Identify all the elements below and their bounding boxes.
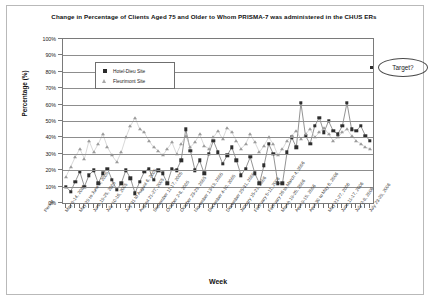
data-point-marker [69, 190, 72, 193]
data-point-marker [74, 180, 77, 183]
y-axis-tick-label: 50% [45, 118, 56, 124]
data-point-marker [152, 145, 156, 148]
y-axis-tickmark [58, 38, 62, 39]
x-axis-labels: May 8-14, 2005May 29 to June 4, 2005June… [7, 208, 425, 274]
y-axis-tickmark [58, 71, 62, 72]
data-point-marker [327, 132, 331, 135]
y-axis-tickmark [58, 153, 62, 154]
y-axis-tick-label: 80% [45, 69, 56, 75]
data-point-marker [105, 145, 109, 148]
data-point-marker [161, 172, 164, 175]
data-point-marker [198, 132, 202, 135]
data-point-marker [235, 159, 238, 162]
data-point-marker [322, 131, 325, 134]
y-axis-tickmark [58, 87, 62, 88]
data-point-marker [82, 157, 86, 160]
data-point-marker [152, 178, 155, 181]
data-point-marker [188, 145, 192, 148]
data-point-marker [115, 160, 119, 163]
legend-label: Fleurimont Site [113, 79, 145, 84]
data-point-marker [308, 127, 312, 130]
data-point-marker [64, 175, 68, 178]
data-point-marker [179, 159, 182, 162]
target-series-marker-icon [370, 66, 373, 69]
data-point-marker [249, 155, 252, 158]
data-point-marker [133, 116, 137, 119]
data-point-marker [165, 147, 169, 150]
y-axis-tick-label: 100% [42, 36, 56, 42]
legend-item-hotel-dieu: Hotel-Dieu Site [99, 66, 174, 76]
y-axis-tickmark [58, 104, 62, 105]
data-point-marker [128, 124, 132, 127]
data-point-marker [87, 139, 91, 142]
y-axis-tickmark [58, 136, 62, 137]
data-point-marker [345, 127, 349, 130]
chart-title: Change in Percentage of Clients Aged 75 … [41, 12, 387, 21]
y-axis-tick-label: 90% [45, 52, 56, 58]
data-point-marker [341, 124, 344, 127]
legend-item-fleurimont: Fleurimont Site [99, 76, 174, 86]
data-point-marker [147, 139, 151, 142]
figure-frame: Change in Percentage of Clients Aged 75 … [6, 5, 424, 295]
y-axis-tickmark [58, 186, 62, 187]
gridline [63, 55, 373, 56]
data-point-marker [318, 116, 321, 119]
data-point-marker [308, 142, 311, 145]
y-axis-title: Percentage (%) [21, 49, 28, 139]
chart-legend: Hotel-Dieu Site Fleurimont Site [95, 62, 175, 89]
data-point-marker [253, 141, 257, 144]
data-point-marker [179, 142, 183, 145]
data-point-marker [368, 147, 372, 150]
data-point-marker [207, 147, 211, 150]
y-axis-labels: 100%90%80%70%60%50%40%30%20%10%0% [33, 38, 60, 204]
data-point-marker [87, 173, 90, 176]
data-point-marker [221, 162, 224, 165]
data-point-marker [239, 173, 242, 176]
y-axis-tick-label: 10% [45, 184, 56, 190]
y-axis-tickmark [58, 169, 62, 170]
data-point-marker [285, 139, 289, 142]
data-point-marker [331, 129, 334, 132]
data-point-marker [294, 129, 298, 132]
data-point-marker [212, 139, 215, 142]
data-point-marker [138, 180, 141, 183]
data-point-marker [340, 131, 344, 134]
data-point-marker [354, 139, 358, 142]
data-point-marker [244, 142, 248, 145]
data-point-marker [230, 146, 233, 149]
data-point-marker [350, 127, 353, 130]
gridline [63, 121, 373, 122]
data-point-marker [234, 139, 238, 142]
data-point-marker [69, 165, 73, 168]
data-point-marker [280, 147, 284, 150]
open-triangle-marker-icon [99, 79, 111, 83]
data-point-marker [248, 132, 252, 135]
data-point-marker [184, 127, 187, 130]
data-point-marker [262, 164, 265, 167]
target-annotation: Target? [378, 58, 428, 77]
data-point-marker [354, 129, 357, 132]
target-label: Target? [378, 58, 428, 77]
data-point-marker [239, 147, 243, 150]
gridline [63, 170, 373, 171]
data-point-marker [295, 146, 298, 149]
data-point-marker [129, 177, 132, 180]
y-axis-tick-label: 60% [45, 102, 56, 108]
data-point-marker [230, 131, 234, 134]
y-axis-tick-label: 70% [45, 85, 56, 91]
data-point-marker [331, 139, 335, 142]
data-point-marker [170, 141, 174, 144]
gridline [63, 137, 373, 138]
data-point-marker [193, 141, 197, 144]
gridline [63, 105, 373, 106]
data-point-marker [359, 142, 363, 145]
data-point-marker [363, 145, 367, 148]
data-point-marker [313, 124, 316, 127]
filled-square-marker-icon [99, 69, 111, 73]
y-axis-tickmark [58, 54, 62, 55]
legend-label: Hotel-Dieu Site [113, 69, 145, 74]
data-point-marker [142, 131, 146, 134]
data-point-marker [156, 149, 160, 152]
data-point-marker [368, 139, 371, 142]
y-axis-tick-label: 40% [45, 134, 56, 140]
